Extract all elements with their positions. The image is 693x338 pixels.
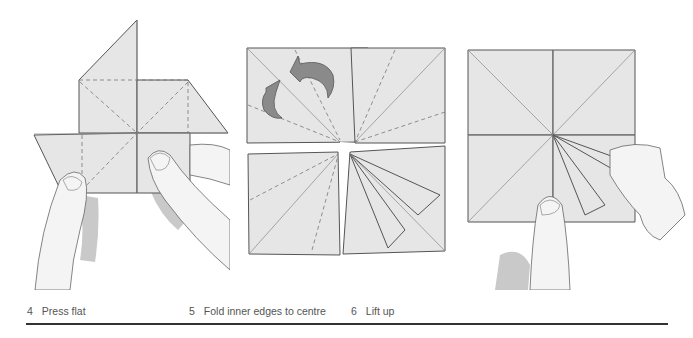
caption-step-4: 4Press flat (27, 305, 86, 317)
step-number: 5 (189, 305, 195, 317)
caption-step-5: 5Fold inner edges to centre (189, 305, 326, 317)
step-number: 4 (27, 305, 33, 317)
step-label: Press flat (42, 305, 86, 317)
illustration-step-6 (460, 0, 693, 290)
step-number: 6 (351, 305, 357, 317)
illustration-step-5 (230, 0, 460, 290)
caption-step-6: 6Lift up (351, 305, 394, 317)
illustration-step-4 (0, 0, 230, 290)
divider-rule (26, 323, 668, 325)
step-label: Lift up (366, 305, 395, 317)
step-label: Fold inner edges to centre (204, 305, 326, 317)
